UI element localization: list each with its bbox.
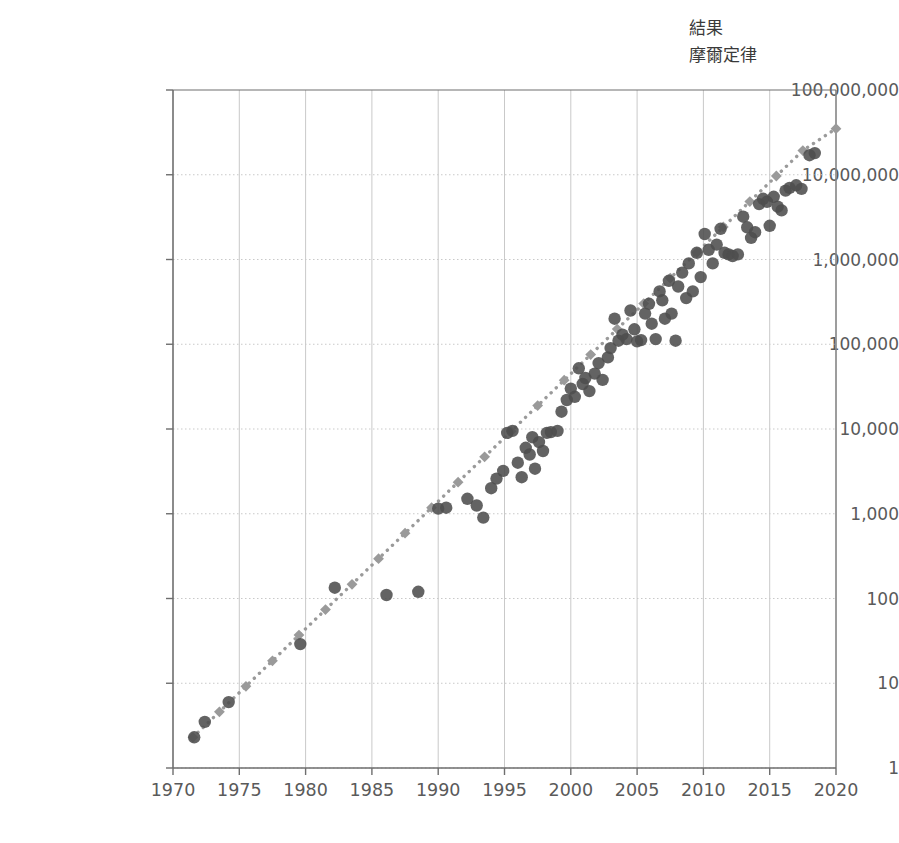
axis-lines (166, 90, 836, 775)
plot-area (0, 0, 899, 843)
chart-container: 結果 摩爾定律 100,000,00010,000,0001,000,00010… (0, 0, 899, 843)
